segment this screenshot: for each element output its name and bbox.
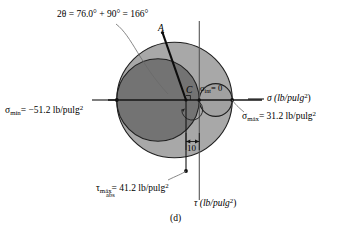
sigma-min-exponent: 2 <box>80 104 83 111</box>
sigma-max-exponent: 2 <box>313 110 316 117</box>
point-a-label: A <box>158 24 164 34</box>
sigma-axis-label: σ (lb/pulg2) <box>267 92 311 104</box>
point-c-label: C <box>186 86 192 96</box>
tau-axis-label: τ (lb/pulg2) <box>194 197 236 209</box>
figure-caption: (d) <box>170 214 181 224</box>
tau-abs-subscript-label: abs <box>106 192 115 199</box>
sigma-min-label: σmín= −51.2 lb/pulg2 <box>5 104 83 116</box>
sigma-min-subscript: mín <box>10 109 21 116</box>
mohr-circle-figure: 2θ = 76.0° + 90° = 166° A C σint= 0 σ (l… <box>0 0 358 235</box>
dimension-ten-label: 10 <box>187 144 196 153</box>
sigma-max-subscript: máx <box>247 115 259 122</box>
sigma-int-label: σint= 0 <box>200 84 222 94</box>
sigma-max-label: σmáx= 31.2 lb/pulg2 <box>242 110 316 122</box>
two-theta-label: 2θ = 76.0° + 90° = 166° <box>57 10 148 20</box>
leader-tau-max <box>168 171 186 180</box>
tau-max-exponent: 2 <box>165 182 168 189</box>
